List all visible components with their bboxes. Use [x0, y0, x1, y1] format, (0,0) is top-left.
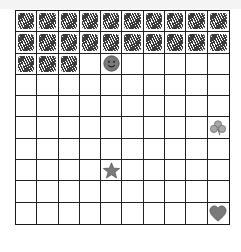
grid-cell[interactable]: [186, 117, 207, 138]
grid-cell[interactable]: [122, 54, 143, 75]
grid-cell[interactable]: [16, 160, 37, 181]
grid-cell[interactable]: [122, 75, 143, 96]
grid-cell[interactable]: [186, 54, 207, 75]
grid-cell[interactable]: [101, 160, 122, 181]
grid-cell[interactable]: [186, 96, 207, 117]
grid-cell[interactable]: [80, 54, 101, 75]
grid-cell-shaded[interactable]: [165, 32, 186, 53]
grid-cell-shaded[interactable]: [186, 32, 207, 53]
grid-cell[interactable]: [186, 75, 207, 96]
grid-cell[interactable]: [80, 117, 101, 138]
grid-cell[interactable]: [186, 203, 207, 224]
grid-cell-shaded[interactable]: [80, 32, 101, 53]
grid-cell-shaded[interactable]: [37, 54, 58, 75]
grid-cell[interactable]: [37, 117, 58, 138]
grid-cell[interactable]: [80, 96, 101, 117]
grid-cell[interactable]: [80, 160, 101, 181]
grid-cell[interactable]: [165, 54, 186, 75]
grid-cell[interactable]: [165, 117, 186, 138]
grid-cell[interactable]: [101, 203, 122, 224]
grid-cell-shaded[interactable]: [59, 32, 80, 53]
grid-cell[interactable]: [208, 117, 229, 138]
grid-cell-shaded[interactable]: [59, 54, 80, 75]
grid-cell[interactable]: [122, 139, 143, 160]
grid-cell[interactable]: [122, 181, 143, 202]
grid-cell-shaded[interactable]: [37, 11, 58, 32]
grid-cell[interactable]: [144, 54, 165, 75]
grid-cell[interactable]: [16, 139, 37, 160]
grid-cell-shaded[interactable]: [16, 11, 37, 32]
grid-cell[interactable]: [122, 160, 143, 181]
grid-cell-shaded[interactable]: [37, 32, 58, 53]
grid-cell[interactable]: [101, 181, 122, 202]
grid-cell[interactable]: [16, 203, 37, 224]
grid-cell[interactable]: [208, 160, 229, 181]
grid-cell[interactable]: [16, 96, 37, 117]
grid-cell-shaded[interactable]: [80, 11, 101, 32]
grid-cell[interactable]: [59, 117, 80, 138]
grid-cell-shaded[interactable]: [208, 11, 229, 32]
grid-cell[interactable]: [144, 203, 165, 224]
grid-cell-shaded[interactable]: [165, 11, 186, 32]
grid-cell[interactable]: [59, 96, 80, 117]
grid-cell[interactable]: [122, 96, 143, 117]
grid-cell[interactable]: [16, 117, 37, 138]
grid-cell[interactable]: [122, 117, 143, 138]
grid-cell[interactable]: [208, 139, 229, 160]
grid-cell-shaded[interactable]: [144, 32, 165, 53]
grid-cell-shaded[interactable]: [208, 32, 229, 53]
grid-cell[interactable]: [165, 139, 186, 160]
grid-cell[interactable]: [144, 96, 165, 117]
grid-cell[interactable]: [144, 75, 165, 96]
grid-cell[interactable]: [37, 96, 58, 117]
grid-cell[interactable]: [59, 139, 80, 160]
grid-cell[interactable]: [208, 96, 229, 117]
grid-cell[interactable]: [101, 75, 122, 96]
grid-cell[interactable]: [208, 181, 229, 202]
grid-cell[interactable]: [144, 160, 165, 181]
grid-cell-shaded[interactable]: [101, 11, 122, 32]
grid-cell[interactable]: [37, 160, 58, 181]
grid-cell-shaded[interactable]: [59, 11, 80, 32]
grid-cell[interactable]: [37, 203, 58, 224]
grid-cell[interactable]: [186, 160, 207, 181]
grid-cell[interactable]: [208, 203, 229, 224]
grid-cell-shaded[interactable]: [144, 11, 165, 32]
grid-cell[interactable]: [208, 75, 229, 96]
grid-cell[interactable]: [37, 181, 58, 202]
grid-cell[interactable]: [144, 117, 165, 138]
grid-cell[interactable]: [186, 181, 207, 202]
grid-cell[interactable]: [101, 54, 122, 75]
grid-cell[interactable]: [80, 75, 101, 96]
grid-cell[interactable]: [80, 139, 101, 160]
grid-cell[interactable]: [59, 203, 80, 224]
grid-cell[interactable]: [37, 139, 58, 160]
grid-cell[interactable]: [165, 203, 186, 224]
grid-cell-shaded[interactable]: [186, 11, 207, 32]
grid-cell[interactable]: [59, 181, 80, 202]
grid-cell[interactable]: [16, 181, 37, 202]
grid-cell[interactable]: [165, 181, 186, 202]
grid-cell[interactable]: [80, 203, 101, 224]
grid-cell[interactable]: [144, 139, 165, 160]
grid-cell[interactable]: [144, 181, 165, 202]
grid-cell[interactable]: [165, 75, 186, 96]
grid-cell[interactable]: [101, 96, 122, 117]
grid-cell-shaded[interactable]: [16, 32, 37, 53]
grid-cell[interactable]: [37, 75, 58, 96]
grid-cell[interactable]: [101, 139, 122, 160]
grid-cell[interactable]: [59, 75, 80, 96]
grid-cell[interactable]: [165, 160, 186, 181]
grid-cell[interactable]: [186, 139, 207, 160]
grid-cell-shaded[interactable]: [16, 54, 37, 75]
grid-cell[interactable]: [16, 75, 37, 96]
grid-cell-shaded[interactable]: [122, 32, 143, 53]
grid-cell-shaded[interactable]: [101, 32, 122, 53]
grid-cell[interactable]: [59, 160, 80, 181]
grid-cell[interactable]: [165, 96, 186, 117]
grid-cell-shaded[interactable]: [122, 11, 143, 32]
grid-cell[interactable]: [208, 54, 229, 75]
grid-cell[interactable]: [80, 181, 101, 202]
grid-cell[interactable]: [101, 117, 122, 138]
grid-cell[interactable]: [122, 203, 143, 224]
